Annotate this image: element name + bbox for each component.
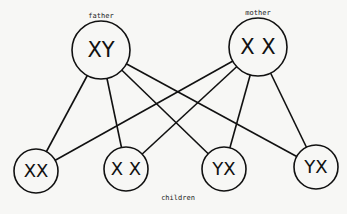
- genotype-label: YX: [211, 158, 235, 179]
- genotype-label: XY: [87, 38, 114, 62]
- father-node: XYfather: [72, 12, 130, 79]
- genotype-label: X X: [111, 158, 141, 179]
- mother-node: X Xmother: [229, 9, 287, 76]
- child-node: YX: [294, 145, 338, 189]
- genotype-label: XX: [24, 160, 49, 181]
- child-node: X X: [104, 147, 148, 191]
- mother-label: mother: [245, 9, 270, 17]
- genotype-label: X X: [240, 35, 275, 59]
- children-label: children: [161, 194, 195, 202]
- father-label: father: [88, 12, 113, 20]
- inheritance-diagram: XYfatherX XmotherXXX XYXYX children: [0, 0, 347, 214]
- nodes: XYfatherX XmotherXXX XYXYX: [14, 9, 338, 193]
- child-node: XX: [14, 149, 58, 193]
- genotype-label: YX: [303, 156, 327, 177]
- child-node: YX: [202, 147, 246, 191]
